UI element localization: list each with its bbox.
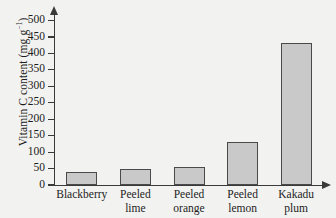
x-axis-category-label-line: Blackberry	[55, 188, 109, 202]
x-axis-category-label: Kakaduplum	[269, 188, 323, 215]
y-axis-tick-mark	[48, 20, 54, 21]
y-axis-tick-mark	[48, 69, 54, 70]
x-axis-category-label-line: Peeled	[216, 188, 270, 202]
y-axis-tick-label: 350	[0, 62, 45, 74]
x-axis-category-label-line: orange	[162, 202, 216, 216]
y-axis-tick-mark	[48, 119, 54, 120]
y-axis-tick-mark	[48, 152, 54, 153]
x-axis-category-label-line: lime	[109, 202, 163, 216]
plot-area	[55, 14, 323, 185]
y-axis-tick-label: 150	[0, 128, 45, 140]
x-axis-category-label-line: Kakadu	[269, 188, 323, 202]
y-axis-tick-mark	[48, 102, 54, 103]
y-axis-tick-label: 300	[0, 79, 45, 91]
bar	[227, 142, 258, 185]
x-axis-arrow-icon	[322, 181, 331, 189]
y-axis-tick-label: 50	[0, 161, 45, 173]
x-axis-category-label-line: Peeled	[162, 188, 216, 202]
x-axis-category-label-line: Peeled	[109, 188, 163, 202]
x-axis-category-label: Peeledorange	[162, 188, 216, 215]
y-axis-tick-mark	[48, 36, 54, 37]
y-axis-tick-label: 500	[0, 13, 45, 25]
y-axis-tick-label: 250	[0, 95, 45, 107]
bar	[66, 172, 97, 185]
y-axis-tick-label: 400	[0, 46, 45, 58]
y-axis-tick-label: 450	[0, 30, 45, 42]
y-axis-tick-mark	[48, 53, 54, 54]
bar	[174, 167, 205, 185]
bar	[120, 169, 151, 185]
y-axis-tick-mark	[48, 135, 54, 136]
x-axis-category-label: Peeledlime	[109, 188, 163, 215]
y-axis-tick-mark	[48, 184, 54, 185]
bar	[281, 43, 312, 185]
y-axis-tick-label: 0	[0, 178, 45, 190]
x-axis-category-label: Peeledlemon	[216, 188, 270, 215]
y-axis-tick-label: 200	[0, 112, 45, 124]
y-axis-tick-mark	[48, 168, 54, 169]
x-axis-category-label-line: lemon	[216, 202, 270, 216]
y-axis-tick-mark	[48, 86, 54, 87]
x-axis-category-label-line: plum	[269, 202, 323, 216]
y-axis-tick-label: 100	[0, 145, 45, 157]
x-axis-category-label: Blackberry	[55, 188, 109, 202]
vitamin-c-bar-chart: Vitamin C content (mg g−1) 0501001502002…	[0, 0, 336, 218]
